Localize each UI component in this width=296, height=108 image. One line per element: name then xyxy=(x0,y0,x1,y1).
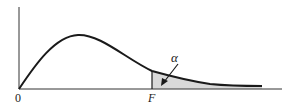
density-curve xyxy=(19,35,262,89)
critical-value-label: F xyxy=(148,92,155,104)
alpha-label: α xyxy=(171,51,178,64)
origin-label: 0 xyxy=(15,92,21,104)
